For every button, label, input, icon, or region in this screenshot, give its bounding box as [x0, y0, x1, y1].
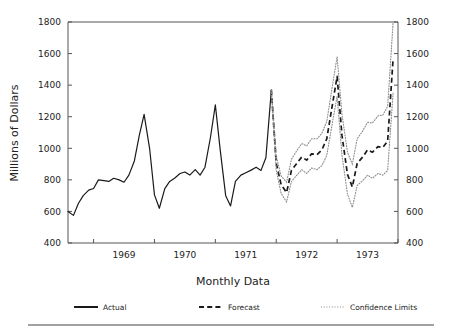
y-tick-label-right: 1800: [406, 17, 429, 27]
y-tick-label-left: 1800: [38, 17, 61, 27]
y-tick-label-right: 1000: [406, 144, 429, 154]
y-tick-label-left: 1200: [38, 112, 61, 122]
x-tick-label: 1971: [234, 250, 257, 260]
legend-label-confidence-limits: Confidence Limits: [350, 303, 417, 312]
y-tick-label-left: 800: [44, 175, 61, 185]
y-tick-label-left: 1000: [38, 144, 61, 154]
x-tick-label: 1969: [113, 250, 136, 260]
y-tick-label-left: 600: [44, 207, 61, 217]
legend-label-actual: Actual: [103, 303, 127, 312]
x-axis-title: Monthly Data: [196, 275, 270, 288]
y-tick-label-left: 1400: [38, 80, 61, 90]
chart-page: 40060080010001200140016001800 4006008001…: [0, 0, 462, 332]
y-tick-label-right: 1600: [406, 49, 429, 59]
y-tick-label-right: 1200: [406, 112, 429, 122]
y-tick-label-right: 600: [406, 207, 423, 217]
y-tick-label-right: 1400: [406, 80, 429, 90]
x-tick-label: 1972: [295, 250, 318, 260]
legend-label-forecast: Forecast: [228, 303, 260, 312]
y-tick-label-right: 400: [406, 238, 423, 248]
y-tick-label-right: 800: [406, 175, 423, 185]
forecast-line-chart: 40060080010001200140016001800 4006008001…: [0, 0, 462, 332]
x-tick-label: 1970: [173, 250, 196, 260]
y-tick-label-left: 1600: [38, 49, 61, 59]
y-tick-label-left: 400: [44, 238, 61, 248]
y-axis-title: Millions of Dollars: [8, 84, 21, 181]
x-tick-label: 1973: [356, 250, 379, 260]
chart-legend: ActualForecastConfidence Limits: [74, 303, 417, 312]
